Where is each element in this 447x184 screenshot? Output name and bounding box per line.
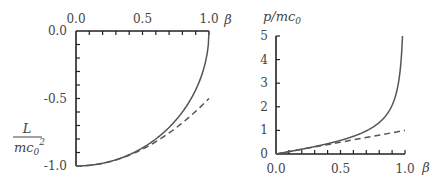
right-y-tick-5: 5 [260,29,268,43]
left-y-tick-2: -1.0 [44,159,67,173]
right-y-tick-3: 3 [260,76,268,90]
right-panel: p/mc0 0 1 2 3 4 5 0.0 0.5 1.0 β [260,9,429,176]
left-x-tick-0: 0.0 [66,12,85,26]
right-x-tick-2: 1.0 [395,162,414,176]
left-y-axis-label: L mc02 [13,121,45,157]
right-solid-curve [276,36,402,154]
left-dashed-curve [76,99,209,167]
right-y-tick-4: 4 [260,53,268,67]
svg-text:L: L [22,121,32,136]
left-y-tick-1: -0.5 [44,92,67,106]
svg-text:mc02: mc02 [14,137,45,157]
chart-figure: 0.0 0.5 1.0 β 0.0 -0.5 -1.0 L mc02 p/mc0… [0,0,447,184]
left-y-tick-0: 0.0 [48,24,67,38]
right-y-axis-label: p/mc0 [263,9,301,26]
right-y-tick-2: 2 [260,100,268,114]
left-panel: 0.0 0.5 1.0 β 0.0 -0.5 -1.0 L mc02 [13,12,232,173]
right-x-tick-0: 0.0 [266,162,285,176]
right-x-axis-label: β [421,160,430,175]
right-x-tick-1: 0.5 [331,162,350,176]
left-x-tick-1: 0.5 [133,12,152,26]
left-x-axis-label: β [223,12,232,27]
right-y-tick-0: 0 [260,147,268,161]
left-solid-curve [76,31,209,166]
right-y-tick-1: 1 [260,123,268,137]
left-x-tick-2: 1.0 [199,12,218,26]
